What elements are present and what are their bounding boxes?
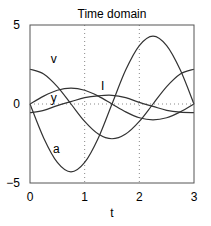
- curve-label-v: v: [51, 52, 57, 66]
- y-tick-0: 0: [13, 97, 20, 111]
- curve-label-y: y: [51, 91, 57, 105]
- x-tick-2: 2: [136, 190, 143, 204]
- x-tick-0: 0: [27, 190, 34, 204]
- x-axis-label: t: [110, 206, 114, 220]
- x-tick-1: 1: [81, 190, 88, 204]
- time-domain-chart: Time domain vaIy 5 0 −5 0 1 2 3 t: [0, 0, 211, 226]
- curve-label-a: a: [53, 142, 60, 156]
- chart-title: Time domain: [78, 7, 147, 21]
- y-tick-neg5: −5: [6, 176, 20, 190]
- y-tick-5: 5: [13, 18, 20, 32]
- curve-label-i: I: [101, 79, 104, 93]
- x-tick-3: 3: [191, 190, 198, 204]
